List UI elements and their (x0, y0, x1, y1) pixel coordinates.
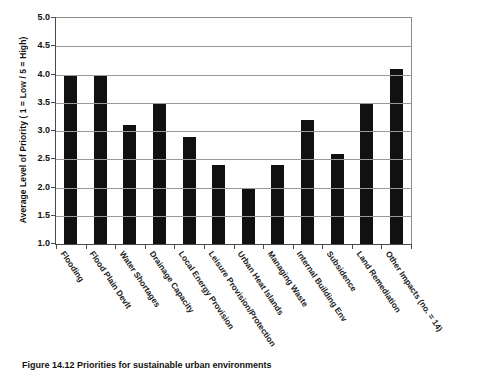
figure-container: Average Level of Priority ( 1 = Low / 5 … (0, 0, 487, 370)
x-tick-label: Other Impacts (no. = 14) (384, 249, 445, 333)
x-tick-label: Flooding (58, 249, 86, 284)
figure-caption: Figure 14.12 Priorities for sustainable … (22, 360, 272, 370)
x-tick-label: Internal Building Env (295, 249, 350, 323)
x-tick-label: Local Energy Provision (177, 249, 237, 331)
x-axis-ticks: FloodingFlood Plain DevltWater Shortages… (0, 0, 487, 370)
x-tick-label: Subsidence (325, 249, 359, 293)
